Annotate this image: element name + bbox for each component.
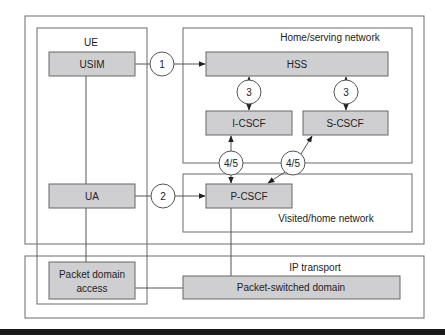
home-network-frame	[183, 28, 412, 163]
ip-transport-label: IP transport	[289, 262, 341, 273]
scscf-label: S-CSCF	[326, 118, 363, 129]
packet-domain-access-node: Packet domain access	[49, 262, 135, 299]
interface-1-circle: 1	[150, 52, 174, 76]
ue-label: UE	[84, 37, 98, 48]
ua-node: UA	[49, 184, 135, 208]
interface-1-label: 1	[159, 59, 165, 70]
interface-45b-label: 4/5	[286, 158, 300, 169]
interface-45b-circle: 4/5	[281, 151, 305, 175]
usim-label: USIM	[80, 59, 105, 70]
ua-label: UA	[85, 191, 99, 202]
packet-switched-domain-node: Packet-switched domain	[183, 276, 400, 299]
icscf-node: I-CSCF	[206, 111, 292, 135]
interface-2-label: 2	[160, 191, 166, 202]
pcscf-node: P-CSCF	[206, 184, 292, 208]
pcscf-label: P-CSCF	[230, 191, 267, 202]
psd-label: Packet-switched domain	[237, 282, 345, 293]
hss-label: HSS	[287, 59, 308, 70]
bottom-rule	[0, 329, 445, 335]
interface-2-circle: 2	[151, 184, 175, 208]
usim-node: USIM	[49, 52, 135, 76]
interface-3b-circle: 3	[334, 80, 358, 104]
interface-3a-circle: 3	[237, 80, 261, 104]
interface-3a-label: 3	[246, 87, 252, 98]
interface-45a-label: 4/5	[224, 158, 238, 169]
scscf-node: S-CSCF	[303, 111, 388, 135]
interface-3b-label: 3	[343, 87, 349, 98]
home-network-label: Home/serving network	[280, 32, 380, 43]
ims-architecture-diagram: UE Home/serving network Visited/home net…	[0, 0, 445, 335]
visited-network-label: Visited/home network	[278, 213, 374, 224]
pda-label-line1: Packet domain	[59, 269, 125, 280]
hss-node: HSS	[206, 52, 388, 76]
if45b-to-scscf-arrow	[301, 136, 312, 154]
icscf-label: I-CSCF	[232, 118, 265, 129]
pda-label-line2: access	[76, 283, 107, 294]
interface-45a-circle: 4/5	[219, 151, 243, 175]
